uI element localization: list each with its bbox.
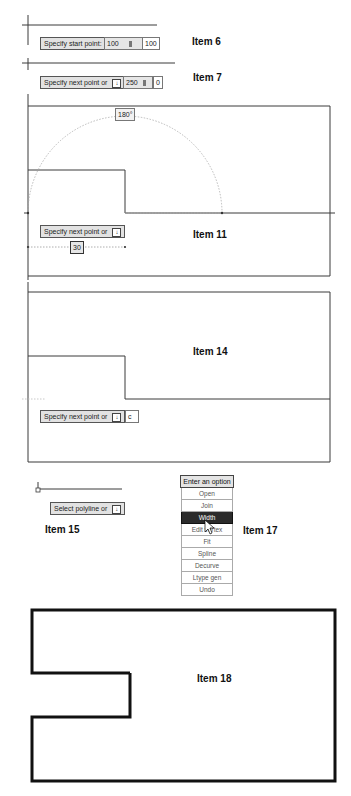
menu-item-width[interactable]: Width: [181, 512, 233, 524]
lock-icon: [129, 41, 132, 47]
menu-item-open[interactable]: Open: [181, 488, 233, 500]
item11-step-polyline: [28, 170, 335, 213]
item18-wide-polyline: [32, 610, 335, 781]
item7-label: Item 7: [193, 72, 222, 83]
menu-item-undo[interactable]: Undo: [181, 584, 233, 596]
length-input[interactable]: 250: [123, 76, 153, 89]
item6-label: Item 6: [192, 36, 221, 47]
menu-item-join[interactable]: Join: [181, 500, 233, 512]
item17-label: Item 17: [243, 525, 277, 536]
y-coordinate-input[interactable]: 100: [142, 37, 160, 50]
select-polyline-prompt: Select polyline or↓: [50, 502, 125, 515]
down-arrow-options-icon[interactable]: ↓: [112, 228, 121, 237]
menu-item-ltype-gen[interactable]: Ltype gen: [181, 572, 233, 584]
next-point-prompt: Specify next point or↓: [40, 410, 125, 423]
menu-item-spline[interactable]: Spline: [181, 548, 233, 560]
lock-icon: [143, 80, 146, 86]
options-menu: Enter an option Open Join Width Edit ver…: [180, 475, 234, 596]
angle-input[interactable]: 0: [153, 76, 163, 89]
next-point-prompt: Specify next point or↓: [40, 76, 125, 89]
down-arrow-options-icon[interactable]: ↓: [112, 79, 121, 88]
menu-item-decurve[interactable]: Decurve: [181, 560, 233, 572]
down-arrow-options-icon[interactable]: ↓: [112, 505, 121, 514]
menu-item-edit-vertex[interactable]: Edit vertex: [181, 524, 233, 536]
item11-label: Item 11: [193, 229, 227, 240]
pickbox-icon: [36, 488, 40, 492]
drawing-canvas: [0, 0, 351, 796]
item15-label: Item 15: [45, 524, 79, 535]
angle-tooltip: 180°: [115, 108, 135, 121]
menu-item-fit[interactable]: Fit: [181, 536, 233, 548]
item14-step-polyline: [28, 356, 330, 399]
menu-header: Enter an option: [180, 475, 234, 488]
item14-label: Item 14: [193, 346, 227, 357]
next-point-prompt: Specify next point or↓: [40, 225, 125, 238]
down-arrow-options-icon[interactable]: ↓: [112, 413, 121, 422]
x-coordinate-input[interactable]: 100: [104, 37, 145, 50]
item18-label: Item 18: [197, 673, 231, 684]
start-point-prompt: Specify start point:: [40, 37, 106, 50]
dimension-input[interactable]: 30: [70, 241, 84, 254]
command-input[interactable]: c: [125, 410, 139, 423]
